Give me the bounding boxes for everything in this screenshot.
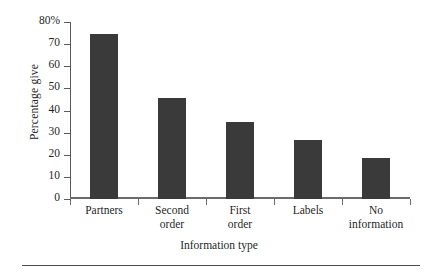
y-axis-tick: 10 bbox=[64, 177, 70, 178]
y-axis-tick-label: 10 bbox=[49, 169, 61, 181]
y-axis-tick: 70 bbox=[64, 44, 70, 45]
y-axis-tick-label: 0 bbox=[54, 191, 60, 203]
y-axis-tick: 50 bbox=[64, 88, 70, 89]
plot-area: 01020304050607080% bbox=[70, 22, 410, 199]
y-axis-tick-label: 30 bbox=[49, 125, 61, 137]
x-axis-category-label-line: Second bbox=[138, 203, 206, 217]
x-axis-title: Information type bbox=[0, 239, 438, 251]
y-axis-tick-label: 70 bbox=[49, 36, 61, 48]
x-axis-category-label-line: information bbox=[342, 217, 410, 231]
y-axis-tick-label: 40 bbox=[49, 103, 61, 115]
bar bbox=[158, 98, 186, 199]
y-axis-tick: 60 bbox=[64, 66, 70, 67]
bar bbox=[226, 122, 254, 199]
bar bbox=[362, 158, 390, 199]
x-axis-category-label-line: No bbox=[342, 203, 410, 217]
x-axis-category-label-line: First bbox=[206, 203, 274, 217]
x-axis-category-label: Partners bbox=[70, 203, 138, 217]
x-axis-tick bbox=[410, 199, 411, 205]
bar bbox=[294, 140, 322, 199]
x-axis-category-label: Noinformation bbox=[342, 203, 410, 231]
y-axis-tick-label: 60 bbox=[49, 58, 61, 70]
bottom-divider bbox=[22, 265, 420, 266]
bar-chart-figure: Percentage give 01020304050607080% Partn… bbox=[0, 0, 438, 273]
y-axis-tick-label: 50 bbox=[49, 80, 61, 92]
y-axis-tick: 40 bbox=[64, 111, 70, 112]
x-axis-category-label: Labels bbox=[274, 203, 342, 217]
y-axis-tick-label: 80% bbox=[39, 14, 60, 26]
y-axis-tick-label: 20 bbox=[49, 147, 61, 159]
y-axis-tick: 80% bbox=[64, 22, 70, 23]
x-axis-category-label: Firstorder bbox=[206, 203, 274, 231]
x-axis-category-label-line: Partners bbox=[70, 203, 138, 217]
y-axis-line bbox=[70, 22, 71, 199]
x-axis-category-label-line: Labels bbox=[274, 203, 342, 217]
y-axis-title: Percentage give bbox=[28, 22, 40, 182]
y-axis-tick: 20 bbox=[64, 155, 70, 156]
x-axis-category-label-line: order bbox=[206, 217, 274, 231]
bar bbox=[90, 34, 118, 199]
x-axis-category-label-line: order bbox=[138, 217, 206, 231]
x-axis-category-label: Secondorder bbox=[138, 203, 206, 231]
y-axis-tick: 30 bbox=[64, 133, 70, 134]
